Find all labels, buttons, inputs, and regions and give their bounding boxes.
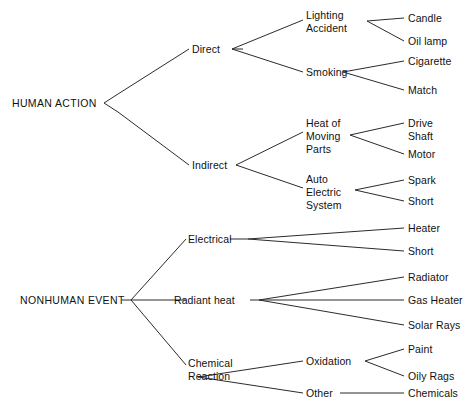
node-chemical-reaction-line1: Chemical bbox=[188, 357, 233, 370]
node-other: Other bbox=[306, 387, 333, 400]
edge-oxidation-to-oily-rags bbox=[365, 361, 404, 376]
edge-human-action-to-indirect bbox=[104, 103, 118, 112]
edge-direct-to-lighting bbox=[232, 20, 303, 49]
node-smoking: Smoking bbox=[306, 66, 348, 79]
node-chemicals: Chemicals bbox=[408, 387, 458, 400]
edge-indirect-to-auto bbox=[236, 165, 303, 188]
node-radiator: Radiator bbox=[408, 271, 449, 284]
node-short-upper: Short bbox=[408, 195, 434, 208]
node-candle: Candle bbox=[408, 12, 442, 25]
edge-nonhuman-to-chemical bbox=[131, 300, 186, 365]
tree-connector-lines bbox=[0, 0, 474, 414]
node-indirect: Indirect bbox=[192, 159, 227, 172]
edge-human-action-to-direct bbox=[104, 94, 118, 103]
node-heater: Heater bbox=[408, 222, 440, 235]
edge-heat-to-drive-shaft bbox=[350, 123, 404, 135]
edge-electrical-to-short bbox=[248, 239, 404, 251]
edge-lighting-to-candle bbox=[367, 18, 404, 21]
edge-heat-to-motor bbox=[350, 135, 404, 154]
node-short-lower: Short bbox=[408, 245, 434, 258]
edge-lighting-to-oil-lamp bbox=[367, 21, 404, 41]
edge-indirect-to-heat bbox=[236, 132, 303, 165]
node-chemical-reaction-line2: Reaction bbox=[188, 370, 230, 383]
node-gas-heater: Gas Heater bbox=[408, 294, 463, 307]
node-drive-shaft-line2: Shaft bbox=[408, 130, 433, 143]
node-cigarette: Cigarette bbox=[408, 55, 452, 68]
node-heat-of-moving-parts-line3: Parts bbox=[306, 143, 331, 156]
edge-direct-to-smoking bbox=[232, 49, 303, 72]
edge-human-action-down bbox=[118, 112, 189, 165]
node-solar-rays: Solar Rays bbox=[408, 319, 460, 332]
node-auto-electric-system-line1: Auto bbox=[306, 173, 328, 186]
node-auto-electric-system-line3: System bbox=[306, 199, 342, 212]
node-heat-of-moving-parts-line2: Moving bbox=[306, 130, 340, 143]
edge-smoking-to-match bbox=[343, 72, 404, 90]
node-human-action: HUMAN ACTION bbox=[12, 97, 97, 110]
node-motor: Motor bbox=[408, 148, 435, 161]
edge-human-action-up bbox=[118, 49, 189, 94]
edge-oxidation-to-paint bbox=[365, 349, 404, 361]
node-lighting-accident-line2: Accident bbox=[306, 22, 347, 35]
node-nonhuman-event: NONHUMAN EVENT bbox=[20, 294, 125, 307]
node-spark: Spark bbox=[408, 174, 436, 187]
node-drive-shaft-line1: Drive bbox=[408, 117, 433, 130]
node-direct: Direct bbox=[192, 43, 220, 56]
node-radiant-heat: Radiant heat bbox=[174, 294, 235, 307]
node-oily-rags: Oily Rags bbox=[408, 370, 454, 383]
node-lighting-accident-line1: Lighting bbox=[306, 9, 344, 22]
edge-radiant-to-solar-rays bbox=[259, 300, 404, 325]
edge-smoking-to-cigarette bbox=[343, 61, 404, 72]
edge-radiant-to-radiator bbox=[259, 277, 404, 300]
node-heat-of-moving-parts-line1: Heat of bbox=[306, 117, 341, 130]
node-oil-lamp: Oil lamp bbox=[408, 35, 447, 48]
tree-diagram: HUMAN ACTION NONHUMAN EVENT Direct Indir… bbox=[0, 0, 474, 414]
node-paint: Paint bbox=[408, 343, 432, 356]
node-electrical: Electrical bbox=[188, 233, 232, 246]
node-oxidation: Oxidation bbox=[306, 355, 351, 368]
edge-electrical-to-heater bbox=[248, 228, 404, 239]
edge-auto-to-spark bbox=[355, 180, 404, 190]
edge-nonhuman-to-electrical bbox=[131, 239, 186, 300]
edge-auto-to-short bbox=[355, 190, 404, 201]
node-auto-electric-system-line2: Electric bbox=[306, 186, 341, 199]
node-match: Match bbox=[408, 84, 437, 97]
